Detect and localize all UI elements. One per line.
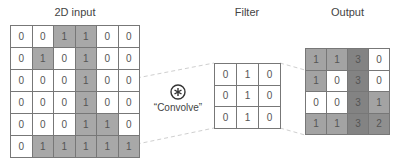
output-cell: 3 bbox=[348, 71, 368, 92]
convolve-label: “Convolve” bbox=[148, 102, 208, 113]
input-cell: 0 bbox=[54, 114, 75, 135]
input-cell: 0 bbox=[119, 70, 140, 91]
input-cell: 0 bbox=[11, 114, 32, 135]
output-cell: 1 bbox=[327, 49, 347, 70]
input-cell: 1 bbox=[97, 136, 118, 157]
input-cell: 0 bbox=[33, 26, 54, 47]
output-cell: 0 bbox=[369, 71, 389, 92]
filter-cell: 1 bbox=[237, 86, 258, 107]
output-cell: 3 bbox=[348, 92, 368, 113]
input-cell: 0 bbox=[119, 26, 140, 47]
input-cell: 1 bbox=[119, 136, 140, 157]
output-grid: 1130103000311132 bbox=[305, 48, 390, 135]
input-cell: 0 bbox=[54, 48, 75, 69]
output-cell: 1 bbox=[306, 71, 326, 92]
output-cell: 3 bbox=[348, 114, 368, 135]
input-cell: 0 bbox=[97, 26, 118, 47]
input-cell: 1 bbox=[54, 136, 75, 157]
input-cell: 0 bbox=[54, 92, 75, 113]
input-cell: 0 bbox=[11, 70, 32, 91]
output-cell: 0 bbox=[327, 92, 347, 113]
circled-asterisk-icon bbox=[170, 84, 186, 100]
input-cell: 0 bbox=[97, 48, 118, 69]
filter-cell: 0 bbox=[215, 64, 236, 85]
filter-cell: 1 bbox=[237, 64, 258, 85]
input-cell: 1 bbox=[76, 92, 97, 113]
input-cell: 0 bbox=[11, 136, 32, 157]
input-title: 2D input bbox=[10, 6, 140, 18]
input-cell: 0 bbox=[54, 70, 75, 91]
input-cell: 1 bbox=[33, 136, 54, 157]
output-cell: 0 bbox=[369, 49, 389, 70]
input-cell: 0 bbox=[11, 92, 32, 113]
input-cell: 0 bbox=[33, 92, 54, 113]
output-cell: 0 bbox=[327, 71, 347, 92]
filter-cell: 1 bbox=[237, 107, 258, 128]
input-cell: 1 bbox=[33, 48, 54, 69]
output-cell: 0 bbox=[306, 92, 326, 113]
output-cell: 1 bbox=[327, 114, 347, 135]
filter-cell: 0 bbox=[215, 107, 236, 128]
output-cell: 3 bbox=[348, 49, 368, 70]
input-cell: 0 bbox=[119, 92, 140, 113]
input-cell: 1 bbox=[76, 114, 97, 135]
input-cell: 0 bbox=[33, 114, 54, 135]
input-cell: 1 bbox=[97, 114, 118, 135]
input-cell: 1 bbox=[54, 26, 75, 47]
filter-cell: 0 bbox=[259, 64, 280, 85]
input-cell: 0 bbox=[119, 48, 140, 69]
output-cell: 1 bbox=[306, 49, 326, 70]
input-cell: 1 bbox=[76, 26, 97, 47]
filter-grid: 010010010 bbox=[214, 63, 281, 129]
input-cell: 0 bbox=[33, 70, 54, 91]
filter-cell: 0 bbox=[259, 86, 280, 107]
filter-cell: 0 bbox=[259, 107, 280, 128]
filter-cell: 0 bbox=[215, 86, 236, 107]
output-cell: 2 bbox=[369, 114, 389, 135]
input-grid: 001100010100000100000100000110011111 bbox=[10, 25, 140, 158]
input-cell: 1 bbox=[76, 48, 97, 69]
input-cell: 0 bbox=[119, 114, 140, 135]
filter-title: Filter bbox=[214, 6, 280, 18]
output-cell: 1 bbox=[369, 92, 389, 113]
input-cell: 0 bbox=[11, 48, 32, 69]
output-cell: 1 bbox=[306, 114, 326, 135]
convolve-operator: “Convolve” bbox=[148, 84, 208, 113]
input-cell: 0 bbox=[97, 92, 118, 113]
input-cell: 1 bbox=[76, 136, 97, 157]
input-cell: 0 bbox=[97, 70, 118, 91]
output-title: Output bbox=[305, 6, 390, 18]
input-cell: 0 bbox=[11, 26, 32, 47]
input-cell: 1 bbox=[76, 70, 97, 91]
